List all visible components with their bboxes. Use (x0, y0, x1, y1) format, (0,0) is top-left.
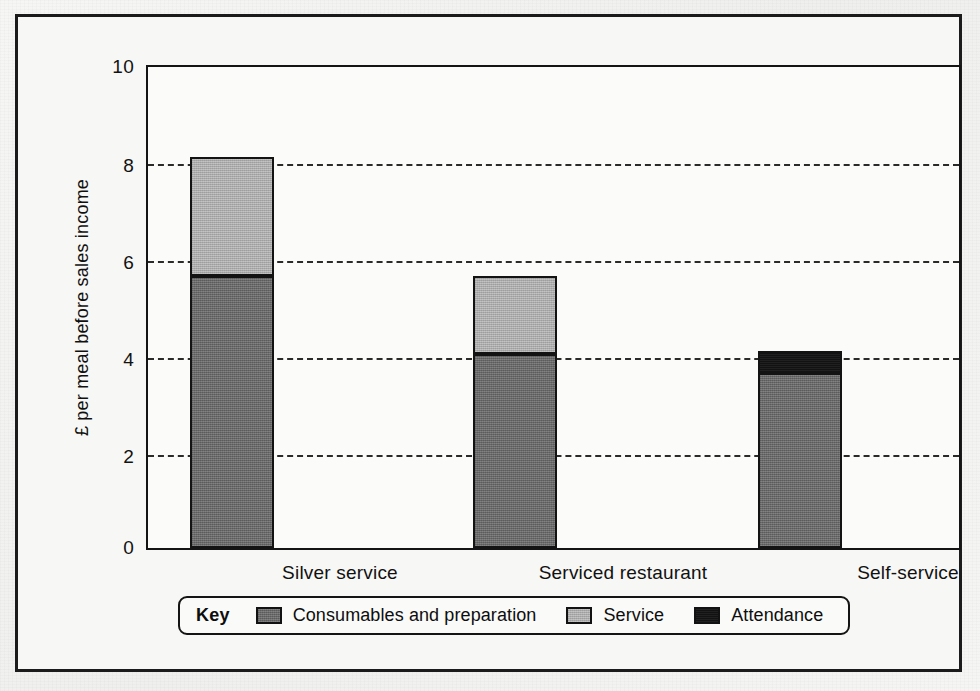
y-tick-label-8: 8 (123, 155, 134, 177)
figure-frame: £ per meal before sales income 10 8 6 4 … (15, 14, 962, 672)
y-tick-label-10: 10 (112, 56, 134, 78)
legend-swatch-consumables-icon (256, 607, 282, 624)
x-tick-label-serviced-restaurant: Serviced restaurant (539, 562, 708, 584)
legend-item-attendance[interactable]: Attendance (694, 605, 823, 626)
y-tick-label-6: 6 (123, 252, 134, 274)
chart-page: £ per meal before sales income 10 8 6 4 … (0, 0, 980, 691)
bar-segment-consumables-and-preparation[interactable] (190, 276, 274, 548)
legend-label-consumables-and-preparation: Consumables and preparation (293, 605, 537, 626)
y-tick-label-2: 2 (123, 446, 134, 468)
y-axis-title-text: £ per meal before sales income (73, 179, 94, 436)
y-axis-title: £ per meal before sales income (70, 65, 96, 550)
legend-swatch-attendance-icon (694, 607, 720, 624)
bar-segment-consumables-and-preparation[interactable] (758, 373, 842, 548)
bar-segment-consumables-and-preparation[interactable] (473, 354, 557, 548)
plot-area: 10 8 6 4 2 0 (146, 65, 961, 550)
x-tick-label-silver-service: Silver service (282, 562, 398, 584)
legend-item-service[interactable]: Service (566, 605, 664, 626)
y-tick-label-0: 0 (123, 537, 134, 559)
legend-label-attendance: Attendance (731, 605, 823, 626)
bar-segment-service[interactable] (190, 157, 274, 276)
legend: Key Consumables and preparation Service … (178, 596, 850, 635)
legend-label-service: Service (603, 605, 664, 626)
bar-segment-attendance[interactable] (758, 351, 842, 373)
y-tick-label-4: 4 (123, 349, 134, 371)
legend-swatch-service-icon (566, 607, 592, 624)
legend-item-consumables-and-preparation[interactable]: Consumables and preparation (256, 605, 537, 626)
x-tick-label-self-service: Self-service (857, 562, 959, 584)
bar-segment-service[interactable] (473, 276, 557, 354)
legend-title: Key (196, 605, 230, 626)
